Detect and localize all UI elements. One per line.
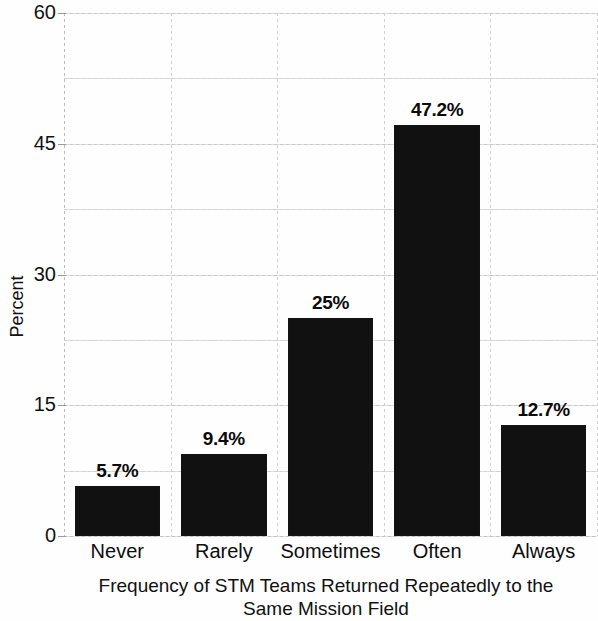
- bar: [394, 125, 479, 536]
- y-axis-tick-mark: [58, 275, 66, 276]
- x-axis-title-line-2: Same Mission Field: [64, 597, 588, 620]
- bar-value-label: 5.7%: [64, 460, 171, 482]
- bar-value-label: 25%: [277, 292, 384, 314]
- gridline-vertical: [277, 13, 278, 536]
- gridline-horizontal: [64, 144, 597, 145]
- gridline-horizontal: [64, 209, 597, 210]
- bar-chart: 015304560 NeverRarelySometimesOftenAlway…: [0, 0, 598, 621]
- y-axis-tick-label: 0: [4, 525, 56, 545]
- gridline-horizontal: [64, 13, 597, 14]
- x-axis-tick-label: Never: [64, 540, 171, 563]
- y-axis-tick-mark: [58, 144, 66, 145]
- y-axis-tick-label: 15: [4, 394, 56, 414]
- gridline-horizontal: [64, 78, 597, 79]
- y-axis-tick-label: 60: [4, 2, 56, 22]
- gridline-horizontal: [64, 275, 597, 276]
- bar: [501, 425, 586, 536]
- y-axis-tick-mark: [58, 13, 66, 14]
- y-axis-tick-mark: [58, 536, 66, 537]
- bar: [181, 454, 266, 536]
- gridline-vertical: [490, 13, 491, 536]
- y-axis-tick-mark: [58, 405, 66, 406]
- y-axis-title: Percent: [7, 252, 28, 362]
- x-axis-line: [64, 536, 597, 537]
- y-axis-tick-label: 45: [4, 133, 56, 153]
- x-axis-tick-label: Sometimes: [277, 540, 384, 563]
- bar: [75, 486, 160, 536]
- x-axis-title: Frequency of STM Teams Returned Repeated…: [64, 574, 588, 620]
- x-axis-tick-label: Often: [384, 540, 491, 563]
- x-axis-tick-label: Rarely: [171, 540, 278, 563]
- bar-value-label: 12.7%: [490, 399, 597, 421]
- bar: [288, 318, 373, 536]
- x-axis-tick-label: Always: [490, 540, 597, 563]
- gridline-vertical: [384, 13, 385, 536]
- x-axis-title-line-1: Frequency of STM Teams Returned Repeated…: [64, 574, 588, 597]
- bar-value-label: 47.2%: [384, 99, 491, 121]
- bar-value-label: 9.4%: [171, 428, 278, 450]
- gridline-vertical: [171, 13, 172, 536]
